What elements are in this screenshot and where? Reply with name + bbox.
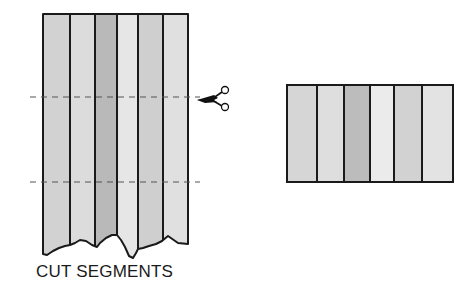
scissors-icon: [197, 87, 229, 111]
cut-segment: [287, 85, 453, 182]
long-strip-set: [43, 14, 188, 264]
strip-1: [43, 14, 70, 264]
strip-4: [117, 14, 138, 264]
strip-2: [70, 14, 95, 264]
cut-segments-diagram: [0, 0, 473, 291]
segment-strip-6: [422, 85, 453, 182]
segment-strip-1: [287, 85, 317, 182]
segment-strip-2: [317, 85, 344, 182]
segment-strip-3: [344, 85, 370, 182]
strip-5: [138, 14, 163, 264]
caption-cut-segments: CUT SEGMENTS: [36, 262, 200, 282]
strip-3: [95, 14, 117, 264]
segment-strip-5: [394, 85, 422, 182]
strip-6: [163, 14, 188, 264]
segment-strip-4: [370, 85, 394, 182]
